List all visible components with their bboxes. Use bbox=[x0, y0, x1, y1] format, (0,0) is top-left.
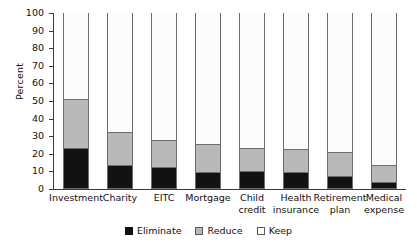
x-label-line: expense bbox=[356, 204, 412, 216]
stacked-bar[interactable] bbox=[195, 13, 221, 189]
segment-eliminate bbox=[196, 173, 220, 188]
bar-group bbox=[230, 13, 274, 189]
y-tick-label-10: 10 bbox=[10, 166, 44, 175]
segment-reduce bbox=[240, 148, 264, 172]
stacked-bar[interactable] bbox=[151, 13, 177, 189]
segment-eliminate bbox=[284, 173, 308, 188]
y-tick-label-90: 90 bbox=[10, 26, 44, 35]
segment-keep bbox=[152, 12, 176, 140]
x-label-line: Medical bbox=[356, 192, 412, 204]
bar-group bbox=[318, 13, 362, 189]
segment-keep bbox=[284, 12, 308, 149]
legend-item-reduce[interactable]: Reduce bbox=[195, 225, 242, 236]
plot-area: 0102030405060708090100 bbox=[54, 13, 406, 189]
segment-keep bbox=[108, 12, 132, 132]
segment-eliminate bbox=[328, 177, 352, 188]
stacked-bar[interactable] bbox=[371, 13, 397, 189]
y-tick-label-30: 30 bbox=[10, 131, 44, 140]
segment-reduce bbox=[196, 144, 220, 173]
segment-eliminate bbox=[108, 166, 132, 188]
x-axis-line bbox=[53, 189, 406, 190]
segment-keep bbox=[64, 12, 88, 99]
segment-reduce bbox=[284, 149, 308, 173]
legend-label: Eliminate bbox=[137, 225, 182, 236]
bar-group bbox=[54, 13, 98, 189]
y-tick-label-50: 50 bbox=[10, 96, 44, 105]
bar-group bbox=[274, 13, 318, 189]
segment-eliminate bbox=[64, 149, 88, 188]
stacked-bar-chart: Percent 0102030405060708090100 Investmen… bbox=[0, 0, 417, 247]
stacked-bar[interactable] bbox=[63, 13, 89, 189]
y-tick-0 bbox=[49, 189, 54, 190]
legend-item-eliminate[interactable]: Eliminate bbox=[125, 225, 182, 236]
y-tick-label-0: 0 bbox=[10, 184, 44, 193]
x-axis-labels: InvestmentCharityEITCMortgageChildcredit… bbox=[54, 192, 406, 224]
bar-group bbox=[98, 13, 142, 189]
segment-keep bbox=[372, 12, 396, 165]
segment-reduce bbox=[152, 140, 176, 168]
stacked-bar[interactable] bbox=[107, 13, 133, 189]
legend-label: Keep bbox=[269, 225, 292, 236]
segment-reduce bbox=[108, 132, 132, 166]
y-tick-label-40: 40 bbox=[10, 114, 44, 123]
y-tick-label-100: 100 bbox=[10, 8, 44, 17]
segment-keep bbox=[328, 12, 352, 152]
legend-label: Reduce bbox=[207, 225, 242, 236]
reduce-swatch-icon bbox=[195, 227, 203, 235]
stacked-bar[interactable] bbox=[239, 13, 265, 189]
segment-eliminate bbox=[152, 168, 176, 188]
segment-reduce bbox=[328, 152, 352, 177]
y-tick-label-70: 70 bbox=[10, 61, 44, 70]
keep-swatch-icon bbox=[257, 227, 265, 235]
segment-reduce bbox=[64, 99, 88, 149]
stacked-bar[interactable] bbox=[283, 13, 309, 189]
legend-item-keep[interactable]: Keep bbox=[257, 225, 292, 236]
bar-group bbox=[142, 13, 186, 189]
y-tick-label-20: 20 bbox=[10, 149, 44, 158]
x-axis-label-medical-expense: Medicalexpense bbox=[356, 192, 412, 215]
segment-keep bbox=[196, 12, 220, 144]
bar-series-container bbox=[54, 13, 406, 189]
segment-keep bbox=[240, 12, 264, 148]
y-tick-label-60: 60 bbox=[10, 78, 44, 87]
chart-legend: EliminateReduceKeep bbox=[0, 225, 417, 236]
segment-eliminate bbox=[372, 183, 396, 188]
bar-group bbox=[362, 13, 406, 189]
stacked-bar[interactable] bbox=[327, 13, 353, 189]
bar-group bbox=[186, 13, 230, 189]
segment-eliminate bbox=[240, 172, 264, 188]
eliminate-swatch-icon bbox=[125, 227, 133, 235]
y-tick-label-80: 80 bbox=[10, 43, 44, 52]
segment-reduce bbox=[372, 165, 396, 183]
